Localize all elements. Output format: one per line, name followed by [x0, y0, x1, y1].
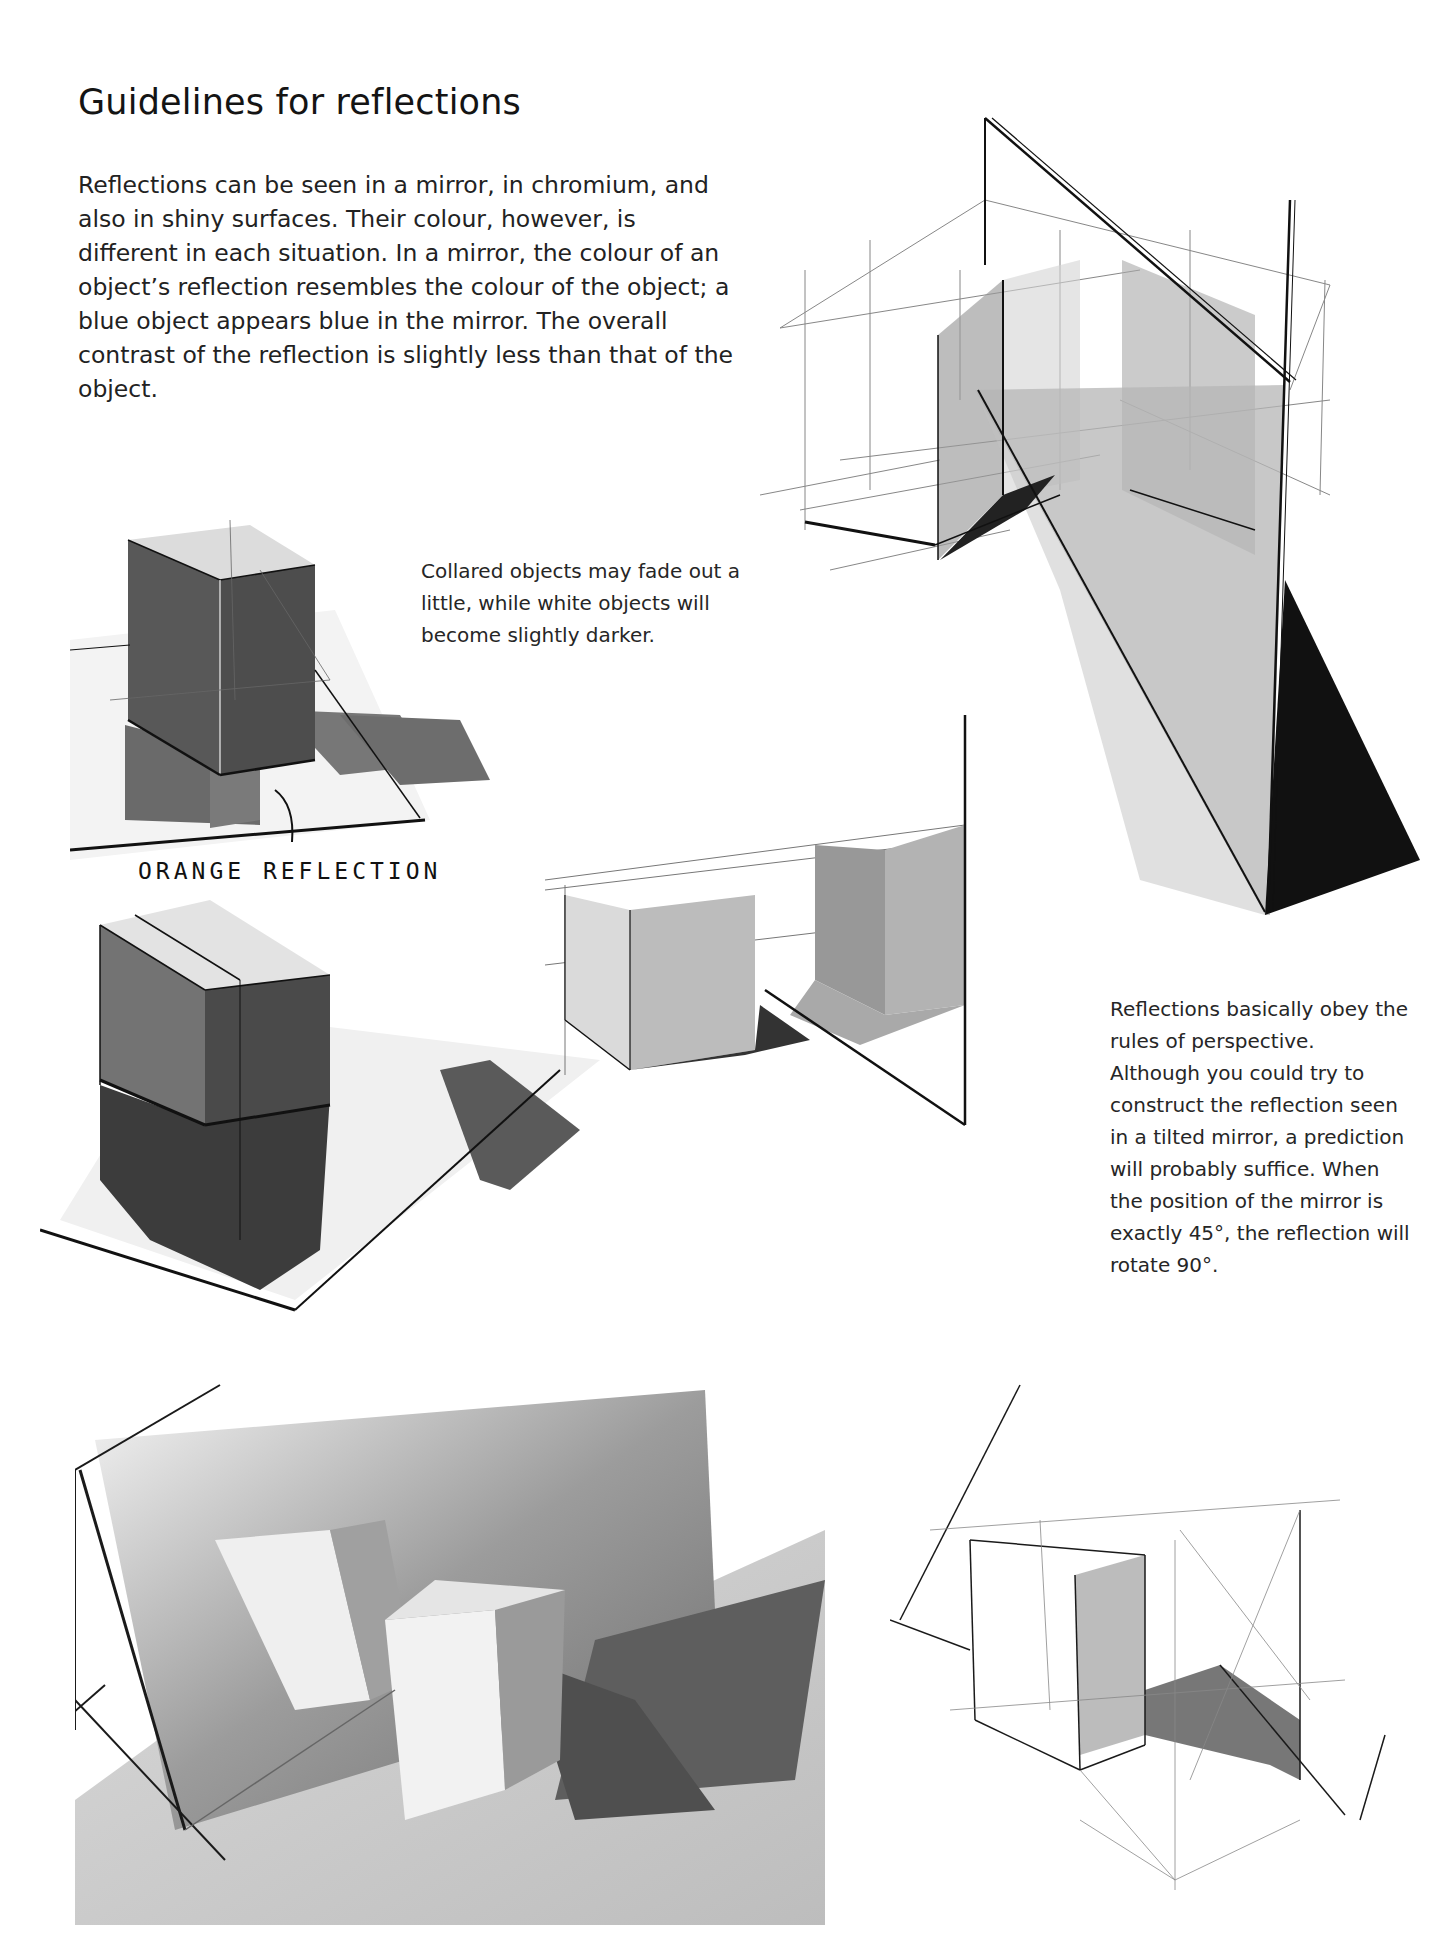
split-block-sketch [40, 880, 630, 1320]
vertical-mirror-sketch [545, 715, 970, 1135]
caption-perspective-rules: Reflections basically obey the rules of … [1110, 993, 1410, 1281]
orange-block-sketch [70, 520, 530, 865]
construction-sketch [890, 1380, 1453, 1951]
page-title: Guidelines for reflections [78, 82, 521, 122]
mirror-photo [75, 1380, 825, 1930]
intro-paragraph: Reflections can be seen in a mirror, in … [78, 168, 738, 406]
